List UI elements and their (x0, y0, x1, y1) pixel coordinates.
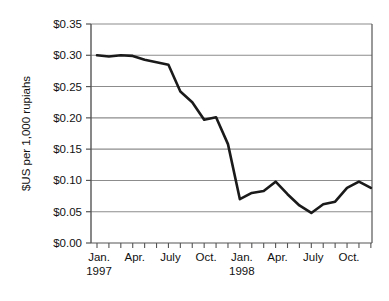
x-axis-tick-label: Jan. (88, 251, 110, 263)
x-axis-tick-label: July (303, 251, 324, 263)
y-axis-tick-label: $0.30 (53, 49, 82, 61)
x-axis-tick-label: Apr. (124, 251, 144, 263)
y-axis-tick-label: $0.10 (53, 174, 82, 186)
x-axis-tick-label: Oct. (196, 251, 217, 263)
x-axis-year-label: 1997 (86, 265, 112, 277)
y-axis-tick-label: $0.05 (53, 206, 82, 218)
y-axis-tick-label: $0.20 (53, 112, 82, 124)
line-chart: $0.00$0.05$0.10$0.15$0.20$0.25$0.30$0.35… (0, 0, 389, 301)
y-axis-tick-label: $0.35 (53, 18, 82, 30)
x-axis-tick-label: Jan. (231, 251, 253, 263)
x-axis-tick-label: Apr. (267, 251, 287, 263)
x-axis-tick-label: July (160, 251, 181, 263)
y-axis-tick-label: $0.00 (53, 237, 82, 249)
y-axis-tick-label: $0.15 (53, 143, 82, 155)
x-axis-tick-label: Oct. (338, 251, 359, 263)
y-axis-tick-label: $0.25 (53, 81, 82, 93)
x-axis-year-label: 1998 (229, 265, 255, 277)
chart-container: $0.00$0.05$0.10$0.15$0.20$0.25$0.30$0.35… (0, 0, 389, 301)
y-axis-title: $US per 1,000 rupiahs (20, 76, 32, 191)
